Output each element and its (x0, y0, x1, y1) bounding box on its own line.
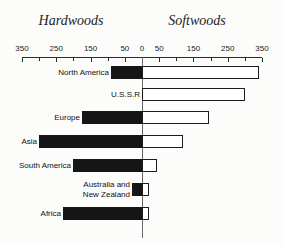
hardwood-bar (111, 66, 142, 79)
category-label: Europe (54, 111, 80, 124)
major-tick (56, 58, 57, 62)
tick-label: 350 (15, 44, 28, 53)
minor-tick (211, 58, 212, 61)
hardwood-bar (63, 207, 142, 220)
major-tick (125, 58, 126, 62)
softwood-bar (142, 135, 183, 148)
tick-label: 250 (50, 44, 63, 53)
tick-label: 150 (187, 44, 200, 53)
minor-tick (245, 58, 246, 61)
tick-label: 50 (120, 44, 129, 53)
major-tick (193, 58, 194, 62)
tick-label: 250 (221, 44, 234, 53)
hardwood-bar (132, 183, 142, 196)
tick-label: 0 (140, 44, 144, 53)
diverging-bar-chart: Hardwoods Softwoods 35035025025015015050… (0, 0, 284, 244)
softwood-bar (142, 111, 209, 124)
tick-label: 50 (155, 44, 164, 53)
category-label: Asia (21, 135, 37, 148)
hardwood-bar (82, 111, 142, 124)
hardwood-bar (39, 135, 142, 148)
category-label: Africa (41, 207, 61, 220)
major-tick (91, 58, 92, 62)
major-tick (262, 58, 263, 62)
major-tick (228, 58, 229, 62)
category-label: North America (58, 66, 109, 79)
softwood-bar (142, 159, 157, 172)
tick-label: 150 (84, 44, 97, 53)
category-label: U.S.S.R (111, 88, 140, 101)
hardwood-bar (73, 159, 142, 172)
tick-label: 350 (255, 44, 268, 53)
softwood-bar (142, 183, 149, 196)
major-tick (159, 58, 160, 62)
softwood-bar (142, 207, 149, 220)
minor-tick (39, 58, 40, 61)
major-tick (22, 58, 23, 62)
category-label: South America (19, 159, 71, 172)
softwood-bar (142, 88, 245, 101)
minor-tick (108, 58, 109, 61)
softwood-bar (142, 66, 259, 79)
minor-tick (73, 58, 74, 61)
minor-tick (176, 58, 177, 61)
softwoods-title: Softwoods (168, 13, 226, 29)
hardwoods-title: Hardwoods (39, 13, 104, 29)
category-label: Australia and New Zealand (83, 183, 130, 196)
